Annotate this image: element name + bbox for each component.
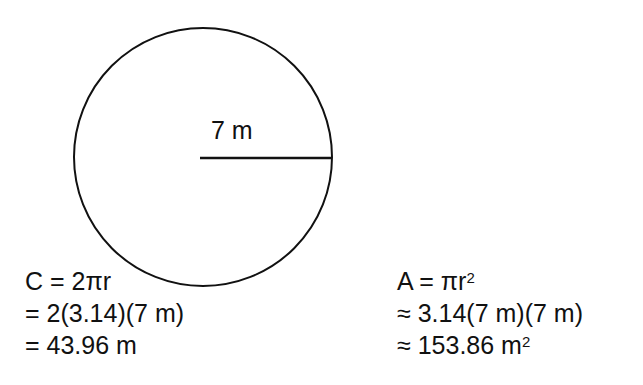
area-formula: A = πr2 [397, 265, 475, 297]
exponent: 2 [466, 269, 474, 286]
pi-symbol: π [85, 267, 102, 295]
circumference-formula: C = 2πr [25, 265, 111, 297]
circumference-result: = 43.96 m [25, 329, 137, 361]
circumference-substitution: = 2(3.14)(7 m) [25, 297, 184, 329]
area-result: ≈ 153.86 m2 [397, 329, 530, 361]
radius-label: 7 m [211, 116, 253, 145]
exponent: 2 [522, 333, 530, 350]
pi-symbol: π [441, 267, 458, 295]
area-substitution: ≈ 3.14(7 m)(7 m) [397, 297, 583, 329]
